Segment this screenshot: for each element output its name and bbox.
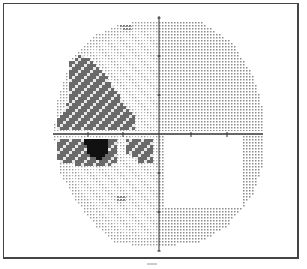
visual-field-plot <box>4 4 297 257</box>
page-mark <box>147 263 157 265</box>
plot-frame <box>3 3 299 259</box>
